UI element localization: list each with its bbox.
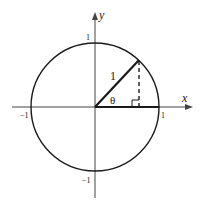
angle-theta-label: θ xyxy=(110,94,115,106)
unit-circle-diagram: y x 1 −1 −1 1 1 θ xyxy=(0,0,201,208)
y-axis-label: y xyxy=(98,8,105,22)
hypotenuse-label: 1 xyxy=(110,69,116,83)
right-angle-marker xyxy=(132,100,139,107)
tick-label-x-pos: 1 xyxy=(161,111,165,120)
tick-label-y-neg: −1 xyxy=(82,176,91,185)
tick-label-x-neg: −1 xyxy=(20,111,29,120)
x-axis-label: x xyxy=(181,91,188,105)
y-axis-arrow-icon xyxy=(92,12,98,20)
tick-label-y-pos: 1 xyxy=(86,33,90,42)
